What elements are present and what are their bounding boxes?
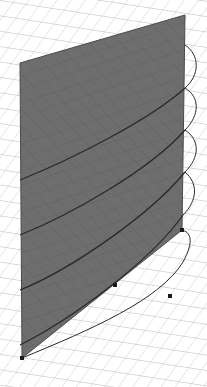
point-b[interactable] (113, 283, 117, 287)
point-c[interactable] (168, 294, 172, 298)
point-d[interactable] (20, 356, 24, 360)
point-a[interactable] (180, 228, 184, 232)
3d-viewport[interactable] (0, 0, 207, 387)
scene-canvas[interactable] (0, 0, 207, 387)
